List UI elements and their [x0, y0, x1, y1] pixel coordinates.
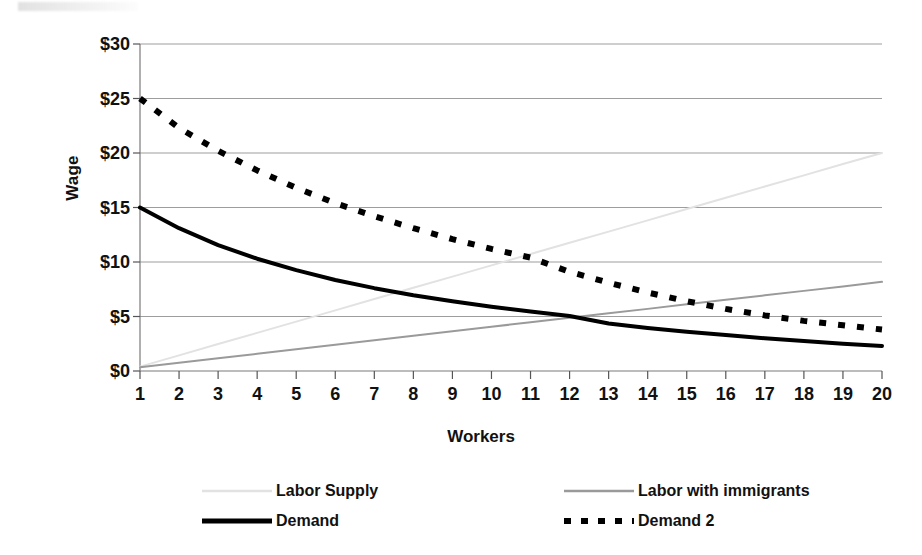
x-axis-tick-label: 17: [748, 384, 782, 405]
y-axis-tick-label: $0: [60, 361, 130, 382]
gridlines: [140, 44, 882, 317]
x-axis-tick-label: 16: [709, 384, 743, 405]
x-axis-tick-label: 3: [201, 384, 235, 405]
x-axis-tick-label: 19: [826, 384, 860, 405]
legend-item-labor-with-immigrants: Labor with immigrants: [562, 482, 810, 500]
y-axis-tick-label: $30: [60, 34, 130, 55]
x-axis-tick-label: 5: [279, 384, 313, 405]
x-axis-tick-label: 12: [553, 384, 587, 405]
legend-item-demand: Demand: [200, 512, 339, 530]
x-axis-tick-label: 11: [514, 384, 548, 405]
black-solid-line-swatch: [200, 513, 274, 529]
gray-line-swatch: [562, 483, 636, 499]
x-axis-tick-label: 8: [396, 384, 430, 405]
x-axis-ticks: [140, 371, 882, 379]
y-axis-tick-labels: $0$5$10$15$20$25$30: [52, 0, 130, 555]
legend-label-labor-supply: Labor Supply: [274, 482, 378, 500]
legend-label-labor-with-immigrants: Labor with immigrants: [636, 482, 810, 500]
x-axis-tick-label: 20: [865, 384, 899, 405]
legend-label-demand-2: Demand 2: [636, 512, 714, 530]
x-axis-tick-label: 6: [318, 384, 352, 405]
x-axis-tick-label: 7: [357, 384, 391, 405]
x-axis-tick-label: 4: [240, 384, 274, 405]
y-axis-tick-label: $10: [60, 252, 130, 273]
plot-area: [0, 0, 922, 555]
y-axis-tick-label: $5: [60, 306, 130, 327]
x-axis-title: Workers: [0, 427, 922, 447]
x-axis-tick-label: 14: [631, 384, 665, 405]
legend-item-labor-supply: Labor Supply: [200, 482, 378, 500]
series-line-labor-supply: [140, 153, 882, 367]
x-axis-tick-label: 15: [670, 384, 704, 405]
y-axis-tick-label: $25: [60, 88, 130, 109]
x-axis-tick-label: 13: [592, 384, 626, 405]
light-gray-line-swatch: [200, 483, 274, 499]
legend-label-demand: Demand: [274, 512, 339, 530]
series-line-labor-with-immigrants: [140, 282, 882, 367]
data-series-group: [140, 99, 882, 368]
y-axis-title: Wage: [63, 133, 83, 223]
legend-item-demand-2: Demand 2: [562, 512, 714, 530]
x-axis-tick-label: 9: [435, 384, 469, 405]
black-dashed-line-swatch: [562, 513, 636, 529]
x-axis-tick-label: 1: [123, 384, 157, 405]
x-axis-tick-label: 2: [162, 384, 196, 405]
x-axis-tick-label: 18: [787, 384, 821, 405]
x-axis-tick-label: 10: [474, 384, 508, 405]
chart-legend: Labor Supply Labor with immigrants Deman…: [200, 482, 900, 544]
wage-workers-chart: $0$5$10$15$20$25$30 12345678910111213141…: [0, 0, 922, 555]
